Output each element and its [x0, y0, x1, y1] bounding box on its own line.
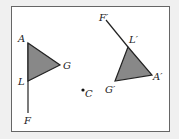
label-c: C — [85, 88, 93, 99]
label-f-prime: F′ — [98, 12, 109, 23]
label-g: G — [63, 60, 71, 71]
label-f: F — [23, 115, 32, 126]
label-g-prime: G′ — [105, 84, 116, 95]
label-l-prime: L′ — [128, 34, 139, 45]
label-a-prime: A′ — [152, 71, 163, 82]
diagram-canvas: A G L F F′ L′ A′ G′ C — [0, 0, 179, 139]
label-l: L — [17, 76, 25, 87]
rotation-diagram: A G L F F′ L′ A′ G′ C — [0, 0, 179, 139]
label-a: A — [17, 33, 25, 44]
